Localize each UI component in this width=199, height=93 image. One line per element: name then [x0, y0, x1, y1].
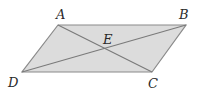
vertex-label-b: B — [178, 7, 189, 22]
vertex-label-c: C — [148, 76, 158, 91]
parallelogram-diagram: A B E D C — [0, 0, 199, 93]
vertex-label-a: A — [55, 7, 65, 22]
intersection-label-e: E — [102, 32, 113, 47]
vertex-label-d: D — [7, 75, 19, 90]
